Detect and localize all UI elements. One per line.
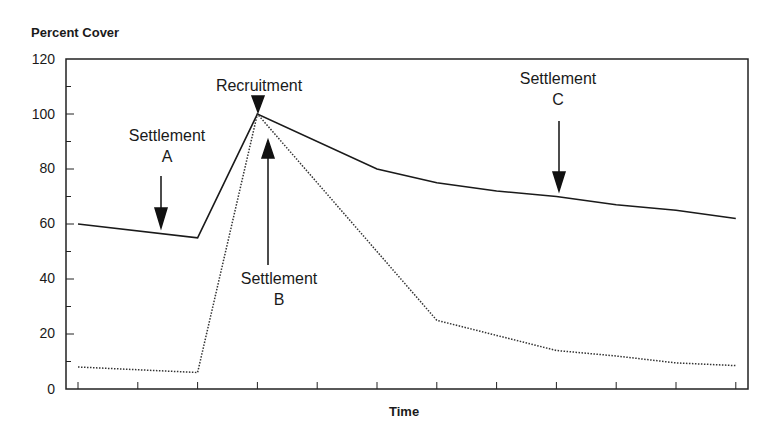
settlement-c-annotation: Settlement C — [520, 68, 596, 110]
recruitment-annotation: Recruitment — [216, 75, 302, 96]
settlement-a-annotation: Settlement A — [129, 125, 205, 167]
settlement-b-letter: B — [241, 289, 317, 310]
settlement-a-label: Settlement — [129, 125, 205, 146]
recruitment-arrowhead-icon — [252, 96, 264, 112]
plot-frame — [66, 59, 748, 389]
settlement-a-arrowhead-icon — [155, 208, 167, 228]
plot-area — [0, 0, 776, 441]
settlement-c-arrowhead-icon — [553, 172, 565, 191]
settlement-b-annotation: Settlement B — [241, 268, 317, 310]
settlement-b-arrowhead-icon — [262, 140, 274, 158]
settlement-c-letter: C — [520, 89, 596, 110]
settlement-c-label: Settlement — [520, 68, 596, 89]
settlement-b-label: Settlement — [241, 268, 317, 289]
settlement-a-letter: A — [129, 146, 205, 167]
